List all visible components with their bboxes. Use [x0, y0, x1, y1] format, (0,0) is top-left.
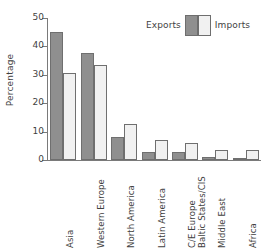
x-tick-label: Asia — [66, 230, 76, 248]
bar-group — [81, 18, 107, 160]
bar-imports — [124, 124, 137, 160]
y-tick-label: 20 — [33, 97, 44, 107]
bar-exports — [111, 137, 124, 160]
bar-exports — [50, 32, 63, 160]
x-tick-label-line: Asia — [65, 230, 75, 248]
bar-imports — [155, 140, 168, 160]
bar-imports — [63, 73, 76, 160]
x-tick-label-line: Africa — [248, 223, 258, 248]
bar-exports — [142, 152, 155, 160]
x-tick-label: C/E EuropeBaltic States/CIS — [188, 176, 207, 248]
plot-area: 01020304050 — [47, 18, 261, 160]
x-tick-label-line: North America — [126, 185, 136, 248]
x-tick-label-line: Baltic States/CIS — [197, 176, 207, 248]
bar-group — [50, 18, 76, 160]
y-axis-title: Percentage — [2, 0, 18, 160]
x-tick-label: Middle East — [218, 198, 228, 248]
bar-group — [172, 18, 198, 160]
bar-group — [233, 18, 259, 160]
x-tick-label-group: Asia — [66, 162, 84, 252]
x-axis-tick-labels: AsiaWestern EuropeNorth AmericaLatin Ame… — [47, 162, 261, 252]
bar-imports — [185, 143, 198, 160]
y-tick-label: 40 — [33, 40, 44, 50]
bar-series-container — [48, 18, 261, 160]
bar-exports — [172, 152, 185, 160]
x-tick-label-group: Africa — [249, 162, 271, 252]
y-tick-label: 10 — [33, 126, 44, 136]
x-tick-label-line: C/E Europe — [187, 200, 197, 248]
bar-imports — [215, 150, 228, 160]
y-tick-label: 30 — [33, 69, 44, 79]
bar-exports — [202, 157, 215, 160]
bar-exports — [233, 158, 246, 160]
bar-imports — [246, 150, 259, 160]
x-tick-label: Latin America — [158, 188, 168, 248]
bar-chart: Exports Imports Percentage 01020304050 A… — [0, 0, 271, 252]
bar-group — [142, 18, 168, 160]
x-tick-label-line: Middle East — [217, 198, 227, 248]
x-tick-label: North America — [127, 185, 137, 248]
y-tick-label: 0 — [38, 154, 44, 164]
y-axis-title-text: Percentage — [5, 54, 15, 107]
bar-exports — [81, 53, 94, 160]
x-axis-line — [47, 160, 261, 161]
x-tick-label-line: Latin America — [157, 188, 167, 248]
bar-group — [202, 18, 228, 160]
x-tick-label: Western Europe — [97, 179, 107, 248]
x-tick-label: Africa — [249, 223, 259, 248]
bar-group — [111, 18, 137, 160]
bar-imports — [94, 65, 107, 160]
x-tick-label-line: Western Europe — [96, 179, 106, 248]
y-tick-label: 50 — [33, 12, 44, 22]
